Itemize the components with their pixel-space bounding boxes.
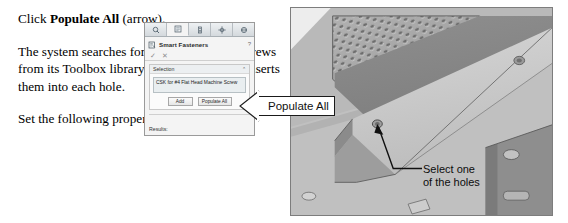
smart-fasteners-icon <box>148 35 156 53</box>
selection-button-row: Add Populate All <box>153 97 246 106</box>
page-root: Click Populate All (arrow). The system s… <box>0 0 568 223</box>
help-icon[interactable]: ? <box>248 41 251 47</box>
configuration-manager-tab[interactable] <box>189 23 211 36</box>
selection-section-body: CSK for #4 Flat Head Machine Screw Add P… <box>150 74 249 109</box>
dimxpert-manager-tab[interactable] <box>211 23 233 36</box>
cad-annotation-line-1: Select one <box>423 163 475 176</box>
ok-button[interactable]: ✓ <box>150 52 156 59</box>
selection-listbox[interactable]: CSK for #4 Flat Head Machine Screw <box>153 77 246 93</box>
dimxpert-icon <box>218 26 226 34</box>
property-manager-icon <box>152 26 160 34</box>
selection-section-label: Selection <box>153 66 174 72</box>
instruction-p1-prefix: Click <box>18 11 50 26</box>
selection-section-header[interactable]: Selection ⌃ <box>150 65 249 74</box>
populate-all-callout: Populate All <box>258 96 335 116</box>
feature-tree-icon <box>174 25 182 33</box>
selection-section: Selection ⌃ CSK for #4 Flat Head Machine… <box>149 64 250 110</box>
property-manager-title-bar: Smart Fasteners ? <box>145 37 254 50</box>
callout-pointer-icon <box>238 90 260 122</box>
add-button[interactable]: Add <box>168 97 193 106</box>
chevron-up-icon[interactable]: ⌃ <box>242 67 246 72</box>
configuration-icon <box>196 26 204 34</box>
property-manager-tab-bar <box>145 23 254 37</box>
cancel-button[interactable]: ✕ <box>162 52 168 59</box>
populate-all-callout-label: Populate All <box>268 100 329 112</box>
property-manager-title: Smart Fasteners <box>159 41 208 48</box>
selection-listbox-item[interactable]: CSK for #4 Flat Head Machine Screw <box>156 79 243 86</box>
ok-cancel-bar: ✓ ✕ <box>145 50 254 61</box>
results-section-label: Results: <box>149 126 168 132</box>
populate-all-bold-ref: Populate All <box>50 11 119 26</box>
populate-all-button[interactable]: Populate All <box>198 97 232 106</box>
cad-annotation-line-2: of the holes <box>423 176 480 189</box>
display-manager-icon <box>240 26 248 34</box>
results-section: Results: <box>149 114 250 135</box>
feature-manager-tab[interactable] <box>167 23 189 36</box>
display-manager-tab[interactable] <box>233 23 254 36</box>
